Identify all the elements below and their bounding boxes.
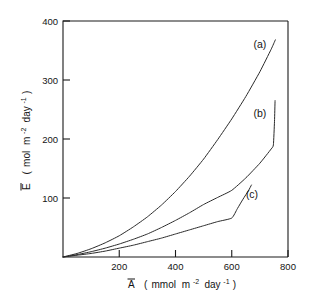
x-axis-unit-main: mmol [152,279,176,290]
data-curve-c [63,185,251,257]
x-axis-exp-day: -1 [223,278,229,285]
xtick-label-200: 200 [111,261,127,272]
x-axis-symbol: A [128,279,135,290]
axis-frame-top-left [63,21,288,257]
curve-label-b: (b) [253,107,266,119]
y-axis-title: E ( mol m -2 day -1 ) [17,91,32,191]
y-axis-unit-day: day [21,106,32,122]
xtick-label-400: 400 [168,261,184,272]
y-axis-exp-m: -2 [20,128,27,134]
y-axis-symbol: E [21,183,32,190]
y-axis-exp-day: -1 [20,97,27,103]
data-curve-a [63,40,275,257]
y-axis-unit-m: m [21,137,32,145]
ytick-label-200: 200 [42,134,58,145]
chart-svg: 200 400 600 800 100 200 300 400 (a) (b) … [0,0,310,299]
ytick-label-300: 300 [42,75,58,86]
ytick-label-400: 400 [42,16,58,27]
y-axis-open-paren: ( [21,171,32,175]
x-axis-exp-m: -2 [193,278,199,285]
y-axis-unit-main: mol [21,151,32,167]
x-axis-close-paren: ) [233,279,236,290]
x-axis-title-text: A ( mmol m -2 day -1 ) [128,275,236,290]
x-axis-unit-m: m [182,279,190,290]
x-axis-title: A ( mmol m -2 day -1 ) [128,275,237,290]
y-axis-title-text: E ( mol m -2 day -1 ) [17,91,32,190]
figure-container: 200 400 600 800 100 200 300 400 (a) (b) … [0,0,310,299]
curve-label-c: (c) [246,188,258,200]
curve-label-a: (a) [253,38,266,50]
x-axis-open-paren: ( [144,279,148,290]
xtick-label-600: 600 [224,261,240,272]
data-curve-b [63,101,275,257]
y-axis-close-paren: ) [21,91,32,94]
ytick-label-100: 100 [42,193,58,204]
xtick-label-800: 800 [280,261,296,272]
x-axis-unit-day: day [204,279,220,290]
